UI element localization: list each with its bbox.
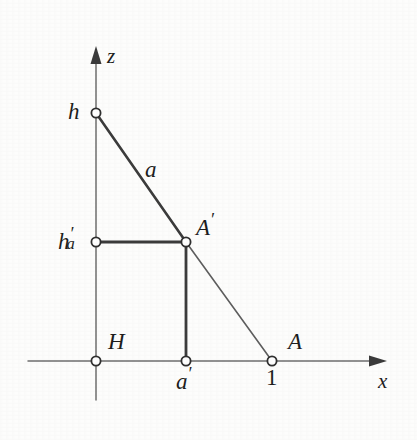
point-marker-h-a-prime — [91, 237, 100, 246]
point-marker-A-prime — [181, 237, 190, 246]
segment-h-to-A-prime — [96, 113, 186, 242]
point-label-a-prime-base: a — [176, 369, 188, 394]
point-label-H: H — [108, 330, 125, 353]
point-label-A-prime: A′ — [196, 212, 214, 239]
point-marker-H — [91, 356, 100, 365]
prime-glyph: ′ — [210, 210, 214, 230]
segment-label-a: a — [145, 158, 157, 181]
segment-A-prime-to-A — [186, 242, 272, 361]
x-axis-label: x — [378, 371, 387, 392]
point-label-A: A — [288, 330, 302, 353]
point-label-h: h — [68, 100, 80, 123]
point-label-a-prime: a′ — [176, 366, 191, 393]
point-label-h-a-prime-subscript: a — [67, 236, 75, 253]
z-axis-label: z — [107, 46, 115, 67]
point-marker-h — [91, 108, 100, 117]
point-label-h-a-prime: h′a — [58, 226, 73, 253]
point-label-A-prime-base: A — [196, 215, 210, 240]
z-axis-arrowhead — [91, 46, 102, 64]
prime-glyph: ′ — [188, 364, 192, 384]
tick-label-one: 1 — [266, 366, 278, 389]
geometry-figure: z x h h′a A′ H a′ A 1 a — [0, 0, 417, 440]
x-axis-arrowhead — [369, 356, 387, 367]
